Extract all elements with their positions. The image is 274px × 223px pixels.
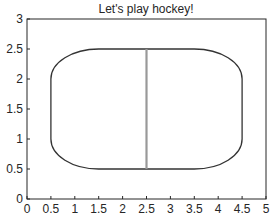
x-tick-label: 3.5 (186, 202, 203, 216)
y-tick-label: 1.5 (6, 102, 23, 116)
y-axis-ticks: 00.511.522.53 (6, 12, 30, 206)
plot-area (51, 49, 242, 169)
y-tick-label: 0.5 (6, 162, 23, 176)
x-tick-label: 0.5 (43, 202, 60, 216)
x-tick-label: 0 (24, 202, 31, 216)
y-tick-label: 3 (16, 12, 23, 26)
y-tick-label: 1 (16, 132, 23, 146)
x-tick-label: 4.5 (234, 202, 251, 216)
x-tick-label: 3 (167, 202, 174, 216)
chart-title: Let's play hockey! (98, 2, 193, 16)
y-tick-label: 2.5 (6, 42, 23, 56)
hockey-rink-chart: Let's play hockey! 00.511.522.533.544.55… (0, 0, 274, 223)
x-tick-label: 1 (71, 202, 78, 216)
x-tick-label: 5 (263, 202, 270, 216)
x-tick-label: 2 (119, 202, 126, 216)
x-tick-label: 1.5 (90, 202, 107, 216)
x-tick-label: 2.5 (138, 202, 155, 216)
y-tick-label: 0 (16, 192, 23, 206)
x-tick-label: 4 (215, 202, 222, 216)
y-tick-label: 2 (16, 72, 23, 86)
